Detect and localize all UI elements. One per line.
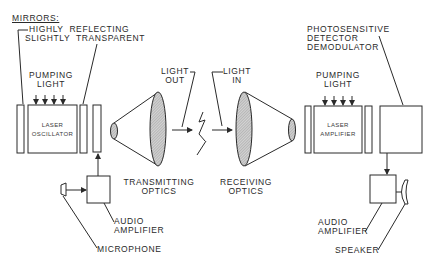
label-laser-oscillator-2: OSCILLATOR <box>28 131 77 138</box>
label-slightly-transparent: SLIGHTLY TRANSPARENT <box>25 34 145 43</box>
lightning-bolt-icon <box>199 112 205 141</box>
label-detector-3: DEMODULATOR <box>307 43 379 52</box>
label-laser-oscillator-1: LASER <box>28 122 77 129</box>
label-light-out-2: OUT <box>160 76 190 85</box>
mirror-highly-reflecting <box>17 105 24 153</box>
label-pumping-rx-2: LIGHT <box>313 80 363 89</box>
mirrors-heading: MIRRORS: <box>12 14 59 23</box>
leader-slightly-transparent <box>83 44 97 104</box>
label-speaker: SPEAKER <box>335 246 379 255</box>
label-laser-amplifier-1: LASER <box>314 122 362 129</box>
leader-speaker <box>378 204 405 250</box>
label-laser-amplifier-2: AMPLIFIER <box>314 131 362 138</box>
detector-demodulator-box <box>380 106 422 153</box>
receiving-optics <box>236 92 296 166</box>
speaker-icon <box>402 180 409 204</box>
label-pumping-tx-2: LIGHT <box>26 80 76 89</box>
rx-mirror-left <box>305 106 311 153</box>
label-microphone: MICROPHONE <box>97 245 162 254</box>
audio-amplifier-tx-box <box>87 176 110 203</box>
laser-communication-diagram: MIRRORS: HIGHLY REFLECTING SLIGHTLY TRAN… <box>0 0 436 266</box>
laser-oscillator-box <box>28 105 77 153</box>
laser-amplifier-box <box>314 106 362 153</box>
pumping-light-arrows-rx <box>325 96 352 105</box>
label-light-in-2: IN <box>222 76 252 85</box>
leader-detector <box>379 36 403 105</box>
label-audio-amplifier-tx-2: AMPLIFIER <box>114 226 164 235</box>
mirror-slightly-transparent <box>80 105 87 153</box>
leader-audio-amp-tx <box>104 203 114 222</box>
label-receiving-optics-2: OPTICS <box>210 187 282 196</box>
label-transmitting-optics-2: OPTICS <box>120 187 198 196</box>
label-audio-amplifier-rx-2: AMPLIFIER <box>318 227 368 236</box>
modulator <box>93 105 101 152</box>
microphone-icon <box>61 183 66 196</box>
audio-amplifier-rx-box <box>370 175 396 203</box>
leader-microphone <box>63 196 97 248</box>
pumping-light-arrows-tx <box>36 95 63 104</box>
rx-mirror-right <box>365 106 372 153</box>
transmitting-optics <box>111 92 167 166</box>
